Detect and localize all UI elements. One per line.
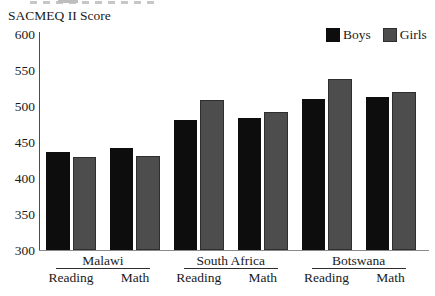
bar-botswana-reading-boys xyxy=(302,99,326,250)
bar-south-africa-reading-girls xyxy=(200,100,224,250)
country-label-south-africa: South Africa xyxy=(171,253,291,268)
plot-area: 600550500450400350300ReadingMathMalawiRe… xyxy=(0,0,435,296)
y-tick-label-350: 350 xyxy=(2,207,35,222)
country-underline-botswana xyxy=(312,268,406,269)
y-tick-label-600: 600 xyxy=(2,27,35,42)
bar-south-africa-math-boys xyxy=(238,118,262,250)
bar-malawi-math-girls xyxy=(136,156,160,250)
y-tick-label-450: 450 xyxy=(2,135,35,150)
y-tick-label-500: 500 xyxy=(2,99,35,114)
country-label-botswana: Botswana xyxy=(299,253,419,268)
country-underline-south-africa xyxy=(184,268,278,269)
bar-south-africa-reading-boys xyxy=(174,120,198,250)
bar-malawi-reading-girls xyxy=(73,157,97,250)
bar-south-africa-math-girls xyxy=(264,112,288,250)
bar-botswana-math-girls xyxy=(392,92,416,250)
x-axis-line xyxy=(39,250,429,251)
y-tick-label-300: 300 xyxy=(2,243,35,258)
y-tick-label-400: 400 xyxy=(2,171,35,186)
country-underline-malawi xyxy=(56,268,150,269)
y-axis-line xyxy=(39,32,40,250)
sacmeq-bar-chart-figure: SACMEQ II Score Boys Girls 6005505004504… xyxy=(0,0,435,296)
subject-label-botswana-math: Math xyxy=(351,270,431,285)
bar-malawi-math-boys xyxy=(110,148,134,250)
y-tick-label-550: 550 xyxy=(2,63,35,78)
country-label-malawi: Malawi xyxy=(43,253,163,268)
bar-malawi-reading-boys xyxy=(46,152,70,250)
bar-botswana-reading-girls xyxy=(328,79,352,250)
bar-botswana-math-boys xyxy=(366,97,390,250)
